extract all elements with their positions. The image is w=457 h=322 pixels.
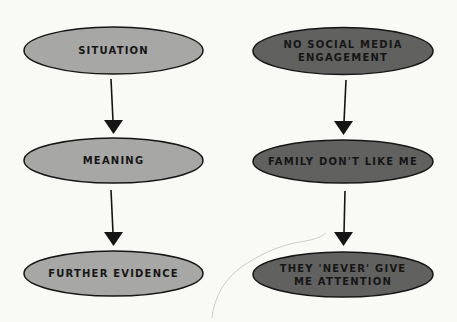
arrow-situation-to-meaning-head [104,120,123,134]
node-further-evidence-label: FURTHER EVIDENCE [24,251,203,296]
node-situation-label: SITUATION [24,27,203,74]
arrow-family-to-attention-head [334,232,353,246]
node-attention-label: THEY 'NEVER' GIVE ME ATTENTION [253,252,433,297]
arrow-situation-to-meaning-shaft [111,79,113,121]
arrow-meaning-to-evidence-head [104,232,123,246]
arrow-social-to-family-head [334,121,353,135]
node-no-social-media-label: NO SOCIAL MEDIA ENGAGEMENT [253,27,433,74]
node-family-label: FAMILY DON'T LIKE ME [253,140,433,183]
arrow-meaning-to-evidence-shaft [111,190,113,233]
flow-diagram: SITUATION MEANING FURTHER EVIDENCE NO SO… [0,0,457,322]
arrow-social-to-family-shaft [344,80,346,122]
node-meaning-label: MEANING [24,138,203,183]
arrow-family-to-attention-shaft [344,191,345,233]
